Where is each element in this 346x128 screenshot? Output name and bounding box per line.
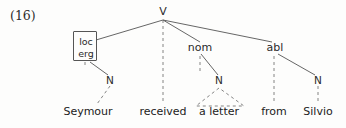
node-case-nom: nom [188, 42, 212, 53]
feature-erg: erg [74, 49, 98, 59]
phrase-triangle-a-letter [196, 88, 244, 106]
example-number: (16) [10, 10, 36, 23]
node-n-right: N [314, 75, 322, 86]
terminal-from: from [261, 106, 287, 117]
terminal-received: received [139, 106, 186, 117]
node-n-left: N [106, 75, 114, 86]
terminal-seymour: Seymour [63, 106, 112, 117]
syntax-tree-figure: (16) V loc erg nom abl N N N Seymour rec… [0, 0, 346, 128]
edge-v-to-abl [163, 20, 272, 42]
edge-v-to-loc-erg [96, 20, 163, 40]
terminal-silvio: Silvio [303, 106, 332, 117]
dashed-n-to-seymour [97, 86, 110, 104]
edge-abl-to-n-right [278, 54, 315, 75]
node-root-v: V [159, 6, 167, 17]
node-n-mid: N [215, 75, 223, 86]
feature-loc: loc [74, 37, 98, 47]
node-case-abl: abl [267, 42, 284, 53]
feature-matrix-box: loc erg [73, 31, 97, 61]
terminal-a-letter: a letter [199, 106, 239, 117]
edge-nom-to-n-mid [201, 54, 218, 75]
